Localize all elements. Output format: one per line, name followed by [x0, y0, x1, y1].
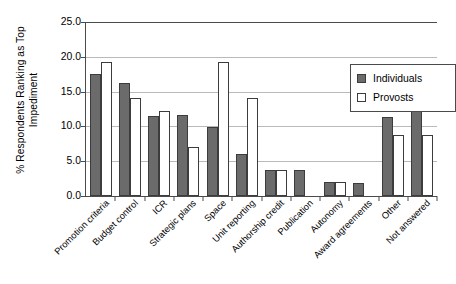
bar-provosts — [218, 62, 229, 196]
y-tick-label: 25.0 — [47, 17, 81, 27]
x-tick-label: Award agreements — [312, 198, 374, 260]
bar-provosts — [422, 135, 433, 196]
x-tick-label: Authorship credit — [230, 198, 286, 254]
y-axis-title-line-1: % Respondents Ranking as Top — [15, 26, 28, 174]
legend-item-provosts: Provosts — [357, 88, 449, 107]
y-axis-title-line-2: Impediment — [28, 26, 41, 174]
bar-group — [320, 22, 349, 196]
bar-group — [115, 22, 144, 196]
bar-provosts — [159, 111, 170, 196]
bar-group — [232, 22, 261, 196]
x-tick-label: Other — [380, 198, 404, 222]
bar-individuals — [236, 154, 247, 196]
bar-provosts — [188, 147, 199, 196]
x-axis-tick-labels: Promotion criteriaBudget controlICRStrat… — [85, 198, 436, 284]
y-tick-label: 5.0 — [47, 156, 81, 166]
legend-label-individuals: Individuals — [373, 73, 422, 84]
y-tick-label: 15.0 — [47, 86, 81, 96]
legend-item-individuals: Individuals — [357, 69, 449, 88]
bar-group — [262, 22, 291, 196]
bar-provosts — [130, 98, 141, 196]
bar-group — [174, 22, 203, 196]
bar-individuals — [382, 117, 393, 196]
bar-individuals — [148, 116, 159, 196]
y-tick-label: 10.0 — [47, 121, 81, 131]
bar-group — [86, 22, 115, 196]
x-tick-label: Space — [202, 198, 228, 224]
legend: Individuals Provosts — [350, 64, 456, 112]
bar-individuals — [265, 170, 276, 196]
bar-individuals — [90, 74, 101, 196]
x-tick-label: ICR — [151, 198, 169, 216]
bar-individuals — [324, 182, 335, 196]
bar-individuals — [177, 115, 188, 196]
y-tick-label: 20.0 — [47, 52, 81, 62]
bar-provosts — [276, 170, 287, 196]
bar-individuals — [207, 127, 218, 196]
bar-individuals — [294, 170, 305, 196]
bar-provosts — [101, 62, 112, 196]
x-tick-mark — [437, 196, 438, 201]
bar-individuals — [119, 83, 130, 196]
legend-swatch-provosts-icon — [357, 93, 366, 102]
y-tick-label: 0.0 — [47, 191, 81, 201]
bar-provosts — [335, 182, 346, 196]
bar-group — [203, 22, 232, 196]
legend-label-provosts: Provosts — [373, 92, 413, 103]
legend-swatch-individuals-icon — [357, 74, 366, 83]
bar-group — [145, 22, 174, 196]
bar-provosts — [247, 98, 258, 196]
bar-individuals — [353, 183, 364, 196]
plot-area: Individuals Provosts — [85, 22, 437, 197]
y-tick-mark — [81, 196, 86, 197]
bar-group — [291, 22, 320, 196]
bar-provosts — [393, 135, 404, 196]
